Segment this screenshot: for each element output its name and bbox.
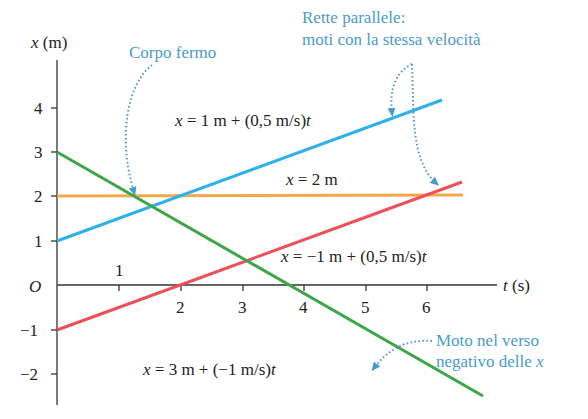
annotation-corpo-fermo: Corpo fermo xyxy=(129,43,216,62)
arrow-corpo-fermo xyxy=(126,65,152,192)
x-tick-label: 4 xyxy=(299,298,308,317)
annotation-rette-parallele-2: moti con la stessa velocità xyxy=(302,30,481,49)
x-tick-label: 1 xyxy=(115,261,124,280)
annotation-moto-negativo-1: Moto nel verso xyxy=(436,331,539,350)
y-tick-label: 4 xyxy=(34,99,43,118)
x-tick-label: 5 xyxy=(361,298,370,317)
y-tick-label: 2 xyxy=(34,187,43,206)
arrow-parallele-red xyxy=(412,64,436,183)
y-tick-label: 1 xyxy=(34,232,43,251)
arrow-parallele-blue xyxy=(391,64,412,113)
y-tick-label: −1 xyxy=(20,321,38,340)
x-axis-title: t (s) xyxy=(503,276,530,295)
x-tick-label: 3 xyxy=(238,298,247,317)
annotation-rette-parallele-1: Rette parallele: xyxy=(302,8,405,27)
equation-blue: x = 1 m + (0,5 m/s)t xyxy=(174,111,312,130)
y-ticks xyxy=(51,108,57,374)
equation-green: x = 3 m + (−1 m/s)t xyxy=(142,360,277,379)
x-tick-label: 6 xyxy=(422,298,431,317)
position-time-chart: 4 3 2 1 −1 −2 O 1 2 3 4 5 6 x (m) t (s) … xyxy=(0,0,588,419)
y-axis-title: x (m) xyxy=(30,33,67,52)
x-tick-label: 2 xyxy=(176,298,185,317)
arrow-moto-negativo xyxy=(374,341,432,368)
annotation-moto-negativo-2: negativo delle x xyxy=(436,352,544,371)
origin-label: O xyxy=(29,277,41,296)
line-orange-stationary xyxy=(57,195,463,196)
equation-orange: x = 2 m xyxy=(285,170,338,189)
y-tick-label: 3 xyxy=(34,143,43,162)
equation-red: x = −1 m + (0,5 m/s)t xyxy=(280,247,428,266)
y-tick-label: −2 xyxy=(20,365,38,384)
